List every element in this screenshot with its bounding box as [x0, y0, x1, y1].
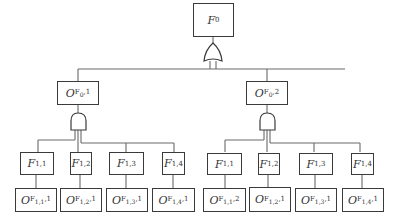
node-label: O: [21, 194, 30, 207]
outcome-node: OF1,3,1: [106, 188, 148, 212]
node-label: O: [66, 194, 75, 207]
fault-node: F1,4: [351, 153, 374, 175]
node-suffix: ,1: [84, 88, 91, 96]
fault-node: F1,3: [109, 152, 144, 175]
outcome-node: OF1,4,1: [152, 188, 195, 212]
and-gate-icon: [71, 113, 86, 130]
node-subsubscript: 1,4: [172, 198, 182, 205]
intermediate-event-node: OF0,1: [57, 81, 99, 105]
node-subscript: 1,1: [223, 160, 234, 168]
outcome-node: OF1,1,2: [203, 188, 246, 212]
node-label: O: [301, 194, 310, 207]
fault-node: F1,1: [207, 153, 242, 175]
node-subscript: 1,3: [314, 160, 325, 168]
node-label: F: [207, 14, 215, 27]
node-suffix: ,2: [233, 195, 240, 203]
node-subscript: 0: [215, 16, 219, 24]
outcome-node: OF1,1,1: [15, 188, 57, 212]
fault-node: F1,4: [162, 152, 185, 175]
node-label: O: [66, 87, 75, 100]
node-suffix: ,1: [135, 195, 142, 203]
node-subsubscript: 1,3: [126, 198, 136, 205]
node-label: O: [112, 194, 121, 207]
outcome-node: OF1,2,1: [60, 188, 102, 212]
node-label: F: [260, 158, 268, 171]
node-subscript: 1,2: [79, 160, 90, 168]
node-subsubscript: 1,2: [80, 198, 90, 205]
fault-node: F1,2: [258, 153, 280, 175]
node-subscript: 1,1: [35, 160, 46, 168]
node-label: F: [28, 157, 36, 170]
node-label: F: [353, 158, 361, 171]
node-label: O: [255, 87, 264, 100]
node-subscript: 1,3: [125, 160, 136, 168]
node-subscript: 1,2: [267, 160, 278, 168]
node-suffix: ,1: [44, 195, 51, 203]
node-label: F: [307, 158, 315, 171]
root-event-node: F0: [193, 3, 234, 37]
node-label: F: [164, 157, 172, 170]
node-label: F: [117, 157, 125, 170]
outcome-node: OF1,2,1: [249, 187, 291, 212]
fault-node: F1,3: [299, 153, 333, 175]
intermediate-event-node: OF0,2: [246, 81, 288, 105]
node-suffix: ,2: [273, 88, 280, 96]
node-subsubscript: 1,4: [362, 198, 372, 205]
node-suffix: ,1: [182, 195, 189, 203]
node-label: F: [215, 158, 223, 171]
fault-tree-diagram: F0 OF0,1 OF0,2 F1,1 F1,2 F1,3 F1,4 OF1,1…: [0, 0, 396, 223]
node-subsubscript: 1,3: [315, 198, 325, 205]
fault-node: F1,1: [20, 152, 54, 175]
fault-node: F1,2: [70, 152, 92, 175]
node-label: O: [158, 194, 167, 207]
node-suffix: ,1: [371, 195, 378, 203]
node-label: F: [72, 157, 80, 170]
outcome-node: OF1,3,1: [295, 188, 337, 212]
node-label: O: [209, 194, 218, 207]
node-label: O: [255, 193, 264, 206]
and-gate-icon: [260, 113, 275, 130]
node-suffix: ,1: [89, 195, 96, 203]
outcome-node: OF1,4,1: [342, 188, 384, 212]
node-subscript: 1,4: [172, 160, 183, 168]
node-subscript: 1,4: [361, 160, 372, 168]
node-suffix: ,1: [278, 195, 285, 203]
node-subsubscript: 1,1: [35, 198, 45, 205]
node-subsubscript: 1,2: [269, 198, 279, 205]
node-label: O: [348, 194, 357, 207]
or-gate-icon: [204, 43, 222, 61]
node-suffix: ,1: [324, 195, 331, 203]
node-subsubscript: 1,1: [223, 198, 233, 205]
